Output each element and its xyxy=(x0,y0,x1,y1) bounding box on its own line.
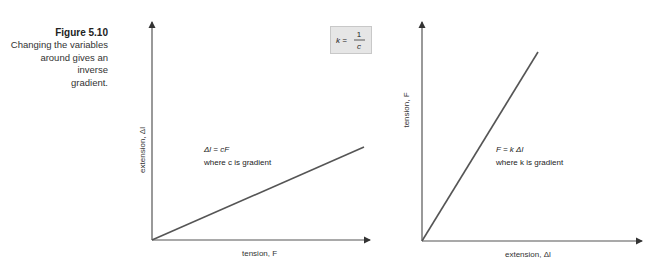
formula-lhs: k = xyxy=(336,36,347,45)
equation-note: where c is gradient xyxy=(203,158,272,167)
right-chart: tension, F extension, Δl F = k Δl where … xyxy=(402,22,642,259)
equation-label: F = k Δl xyxy=(496,145,523,154)
formula-k-equals-one-over-c: k = 1 c xyxy=(336,30,365,51)
left-chart: extension, Δl tension, F Δl = cF where c… xyxy=(138,22,370,258)
y-axis-label: extension, Δl xyxy=(138,127,147,173)
diagram-canvas: k = 1 c extension, Δl tension, F Δl = cF… xyxy=(0,0,659,275)
x-axis-label: tension, F xyxy=(242,249,277,258)
formula-numerator: 1 xyxy=(357,30,362,39)
equation-note: where k is gradient xyxy=(495,158,564,167)
y-axis-label: tension, F xyxy=(402,92,411,127)
equation-label: Δl = cF xyxy=(203,145,230,154)
formula-denominator: c xyxy=(357,42,361,51)
x-axis-label: extension, Δl xyxy=(505,250,551,259)
